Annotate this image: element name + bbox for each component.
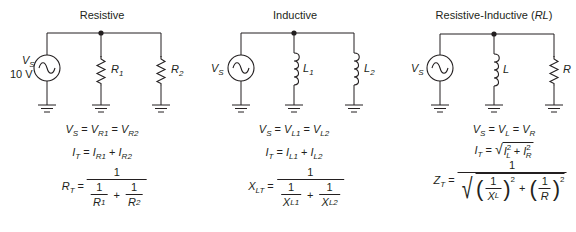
- rl-circuit: [427, 31, 563, 112]
- ground-icon: [545, 105, 563, 112]
- source-label: VS: [411, 63, 424, 77]
- l2-label: L2: [364, 63, 375, 77]
- ground-icon: [485, 105, 503, 112]
- ground-icon: [92, 105, 110, 112]
- total-resistance-equation: RT = 1 1R1 + 1R2: [62, 167, 147, 208]
- inductive-circuit: [228, 30, 363, 112]
- ground-icon: [431, 105, 449, 112]
- r2-label: R2: [171, 64, 183, 78]
- panel-title-rl: Resistive-Inductive (RL): [436, 9, 553, 21]
- source-label: VS: [22, 55, 35, 69]
- inductor-l2-icon: [354, 53, 359, 85]
- l-label: L: [503, 64, 509, 75]
- title-text: Resistive-Inductive (: [436, 9, 535, 21]
- l1-label: L1: [303, 63, 314, 77]
- title-italic: RL: [535, 9, 549, 21]
- resistor-r1-icon: [97, 56, 105, 86]
- ac-source-icon: [228, 55, 254, 81]
- total-reactance-equation: XLT = 1 1XL1 + 1XL2: [248, 167, 344, 208]
- source-value: 10 V: [10, 69, 33, 80]
- ground-icon: [285, 105, 303, 112]
- title-text: ): [549, 9, 553, 21]
- ground-icon: [152, 105, 170, 112]
- current-equation: IT = IR1 + IR2: [72, 147, 132, 161]
- ground-icon: [345, 105, 363, 112]
- resistor-r-icon: [550, 56, 558, 86]
- panel-title-resistive: Resistive: [80, 9, 125, 21]
- voltage-equation: VS = VL1 = VL2: [259, 124, 329, 138]
- total-impedance-equation: ZT = 1 √ ( 1XL )2 + ( 1R )2: [434, 160, 567, 203]
- junction-dot: [291, 30, 296, 35]
- voltage-equation: VS = VR1 = VR2: [66, 124, 139, 138]
- panel-title-inductive: Inductive: [273, 9, 317, 21]
- ground-icon: [232, 105, 250, 112]
- r-label: R: [563, 64, 571, 75]
- ground-icon: [38, 105, 56, 112]
- junction-dot: [98, 30, 103, 35]
- r1-label: R1: [111, 64, 123, 78]
- voltage-equation: VS = VL = VR: [473, 124, 536, 138]
- resistive-circuit: [34, 30, 170, 112]
- resistor-r2-icon: [157, 56, 165, 86]
- sqrt-symbol: √ I2L + I2R: [495, 142, 534, 160]
- junction-dot: [491, 31, 496, 36]
- inductor-l1-icon: [294, 53, 299, 85]
- sqrt-symbol: √: [462, 175, 473, 203]
- ac-source-icon: [34, 55, 60, 81]
- inductor-l-icon: [494, 54, 499, 86]
- source-label: VS: [211, 63, 224, 77]
- ac-source-icon: [427, 55, 453, 81]
- current-equation: IT = √ I2L + I2R: [474, 142, 533, 160]
- current-equation: IT = IL1 + IL2: [265, 147, 322, 161]
